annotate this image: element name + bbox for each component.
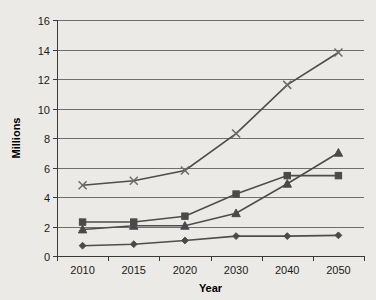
y-axis-title: Millions	[10, 118, 22, 159]
x-tick-label: 2015	[122, 264, 146, 276]
y-tick-label: 10	[38, 104, 50, 116]
chart-canvas: 0246810121416201020152020203020402050Yea…	[0, 0, 376, 300]
y-tick-label: 16	[38, 15, 50, 27]
data-point-triangle	[334, 149, 342, 157]
y-tick-label: 4	[44, 192, 50, 204]
y-tick-label: 2	[44, 222, 50, 234]
data-point-diamond	[335, 232, 342, 239]
data-point-diamond	[182, 237, 189, 244]
data-point-square	[233, 191, 239, 197]
y-tick-label: 0	[44, 251, 50, 263]
data-point-diamond	[130, 241, 137, 248]
x-axis-title: Year	[199, 282, 223, 294]
x-tick-label: 2010	[70, 264, 94, 276]
data-point-diamond	[79, 242, 86, 249]
y-tick-label: 12	[38, 74, 50, 86]
y-tick-label: 8	[44, 133, 50, 145]
x-tick-label: 2030	[224, 264, 248, 276]
data-point-square	[284, 172, 290, 178]
data-point-square	[182, 213, 188, 219]
series-line-series-x	[83, 52, 339, 185]
data-point-triangle	[232, 209, 240, 217]
x-tick-label: 2050	[326, 264, 350, 276]
line-chart: 0246810121416201020152020203020402050Yea…	[0, 0, 376, 300]
x-tick-label: 2020	[173, 264, 197, 276]
data-point-diamond	[233, 233, 240, 240]
series-line-series-diamond	[83, 235, 339, 245]
data-point-triangle	[283, 180, 291, 188]
y-tick-label: 14	[38, 45, 50, 57]
data-point-diamond	[284, 233, 291, 240]
series-line-series-triangle	[83, 153, 339, 230]
data-point-square	[335, 172, 341, 178]
x-tick-label: 2040	[275, 264, 299, 276]
y-tick-label: 6	[44, 163, 50, 175]
